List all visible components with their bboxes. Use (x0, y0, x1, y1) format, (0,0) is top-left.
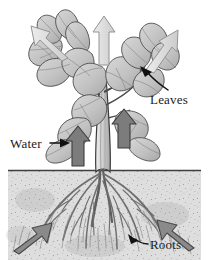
label-water: Water (10, 136, 42, 151)
plant-water-transport-diagram: Leaves Water Roots (0, 0, 209, 260)
diagram-canvas: Leaves Water Roots (0, 0, 209, 260)
leaf (73, 63, 107, 96)
label-leaves: Leaves (150, 92, 188, 107)
label-roots: Roots (150, 237, 181, 252)
